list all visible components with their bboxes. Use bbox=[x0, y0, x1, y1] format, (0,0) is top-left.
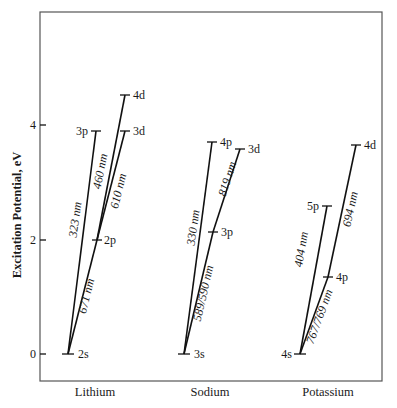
plot-frame bbox=[40, 12, 382, 381]
y-tick-label-4: 4 bbox=[30, 118, 36, 132]
wavelength-na-819: 819 nm bbox=[215, 159, 239, 198]
wavelength-li-610: 610 nm bbox=[107, 172, 129, 210]
label-k-4p: 4p bbox=[336, 270, 348, 284]
sodium-group: 3s 3p 4p 3d 330 nm 589/590 nm 819 nm Sod… bbox=[178, 135, 260, 399]
y-tick-label-2: 2 bbox=[30, 233, 36, 247]
label-k-4s: 4s bbox=[281, 347, 292, 361]
wavelength-na-589: 589/590 nm bbox=[190, 263, 217, 322]
label-li-3p: 3p bbox=[76, 124, 88, 138]
wavelength-k-767: 767/769 nm bbox=[303, 287, 336, 346]
label-na-3p: 3p bbox=[221, 225, 233, 239]
label-li-2p: 2p bbox=[104, 233, 116, 247]
lithium-group: 2s 2p 3p 3d 4d 323 nm 671 nm 460 nm 610 … bbox=[62, 88, 145, 399]
label-k-5p: 5p bbox=[307, 199, 319, 213]
category-potassium: Potassium bbox=[302, 385, 354, 399]
label-k-4d: 4d bbox=[364, 138, 376, 152]
label-na-4p: 4p bbox=[220, 135, 232, 149]
label-li-2s: 2s bbox=[78, 347, 89, 361]
transition-na-330 bbox=[184, 142, 212, 354]
energy-level-diagram: 0 2 4 Excitation Potential, eV 2s 2p 3p … bbox=[0, 0, 397, 408]
y-tick-label-0: 0 bbox=[30, 347, 36, 361]
y-axis-label: Excitation Potential, eV bbox=[10, 152, 24, 279]
wavelength-k-694: 694 nm bbox=[340, 190, 361, 228]
category-lithium: Lithium bbox=[75, 385, 116, 399]
wavelength-li-323: 323 nm bbox=[65, 200, 84, 239]
category-sodium: Sodium bbox=[191, 385, 230, 399]
wavelength-k-404: 404 nm bbox=[291, 230, 311, 268]
label-na-3d: 3d bbox=[248, 142, 260, 156]
label-na-3s: 3s bbox=[194, 347, 205, 361]
transition-li-323 bbox=[68, 131, 96, 354]
label-li-3d: 3d bbox=[133, 124, 145, 138]
wavelength-li-671: 671 nm bbox=[75, 277, 97, 315]
potassium-group: 4s 4p 5p 4d 404 nm 767/769 nm 694 nm Pot… bbox=[281, 138, 376, 399]
label-li-4d: 4d bbox=[133, 88, 145, 102]
